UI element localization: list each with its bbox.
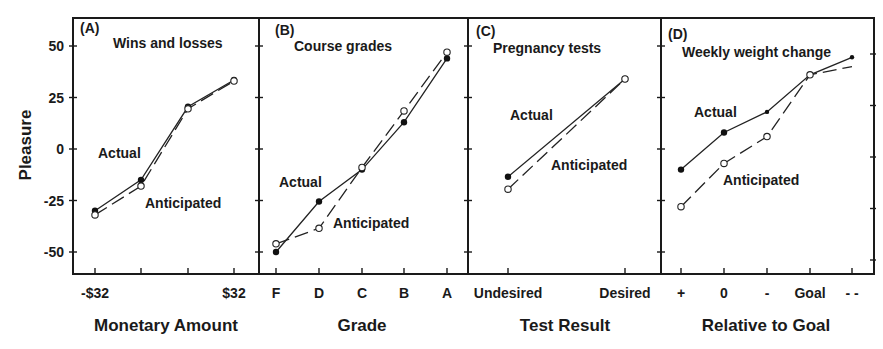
x-tick-label: $32 xyxy=(222,285,246,301)
anticipated-marker xyxy=(678,204,684,210)
actual-marker xyxy=(401,119,407,125)
panel-letter: (B) xyxy=(275,22,294,38)
x-tick-label: D xyxy=(314,285,324,301)
anticipated-marker xyxy=(721,160,727,166)
anticipated-marker xyxy=(273,241,279,247)
anticipated-marker xyxy=(622,76,628,82)
anticipated-marker xyxy=(807,72,813,78)
actual-marker xyxy=(765,110,769,114)
actual-marker xyxy=(444,55,450,61)
x-axis-title: Relative to Goal xyxy=(702,316,830,335)
panel-title: Course grades xyxy=(294,38,392,54)
actual-label: Actual xyxy=(694,104,737,120)
actual-marker xyxy=(678,166,684,172)
panel-title: Weekly weight change xyxy=(682,44,831,60)
y-tick-label: 25 xyxy=(48,90,64,106)
x-tick-label: C xyxy=(357,285,367,301)
actual-marker xyxy=(505,174,511,180)
actual-marker xyxy=(273,249,279,255)
x-tick-label: - xyxy=(765,285,770,301)
x-tick-label: 0 xyxy=(720,285,728,301)
x-tick-label: B xyxy=(399,285,409,301)
anticipated-marker xyxy=(764,133,770,139)
actual-label: Actual xyxy=(510,107,553,123)
anticipated-marker xyxy=(401,108,407,114)
anticipated-marker xyxy=(505,186,511,192)
anticipated-marker xyxy=(359,164,365,170)
actual-label: Actual xyxy=(98,145,141,161)
actual-marker xyxy=(316,198,322,204)
x-tick-label: F xyxy=(272,285,281,301)
x-axis-title: Monetary Amount xyxy=(94,316,238,335)
actual-marker xyxy=(721,129,727,135)
panel-d-weekly-weight-change: +0-Goal- -Relative to Goal(D)Weekly weig… xyxy=(657,18,876,335)
anticipated-marker xyxy=(444,49,450,55)
anticipated-marker xyxy=(231,78,237,84)
x-tick-label: A xyxy=(442,285,452,301)
x-tick-label: -$32 xyxy=(81,285,109,301)
anticipated-label: Anticipated xyxy=(723,172,799,188)
x-axis-title: Grade xyxy=(337,316,386,335)
anticipated-label: Anticipated xyxy=(145,195,221,211)
panel-title: Pregnancy tests xyxy=(493,40,601,56)
x-axis-title: Test Result xyxy=(520,316,611,335)
anticipated-marker xyxy=(138,183,144,189)
y-tick-label: -50 xyxy=(44,244,64,260)
panel-a-wins-and-losses: -$32$32Monetary Amount(A)Wins and losses… xyxy=(69,18,259,335)
anticipated-marker xyxy=(316,225,322,231)
anticipated-label: Anticipated xyxy=(551,157,627,173)
panel-c-pregnancy-tests: UndesiredDesiredTest Result(C)Pregnancy … xyxy=(464,18,661,335)
x-tick-label: Undesired xyxy=(474,285,542,301)
anticipated-marker xyxy=(185,106,191,112)
panel-frame xyxy=(468,18,661,274)
x-tick-label: + xyxy=(677,285,685,301)
x-tick-label: Desired xyxy=(599,285,650,301)
anticipated-marker xyxy=(92,212,98,218)
actual-label: Actual xyxy=(279,174,322,190)
x-tick-label: Goal xyxy=(794,285,825,301)
x-tick-label: - - xyxy=(845,285,859,301)
y-tick-labels: 50250-25-50 xyxy=(44,38,64,260)
y-tick-label: 0 xyxy=(56,141,64,157)
panel-letter: (A) xyxy=(80,20,99,36)
figure: Pleasure 50250-25-50 -$32$32Monetary Amo… xyxy=(0,0,883,349)
y-axis-title: Pleasure xyxy=(16,110,35,181)
actual-marker xyxy=(850,55,854,59)
panel-letter: (D) xyxy=(668,26,687,42)
actual-marker xyxy=(138,177,144,183)
y-tick-label: 50 xyxy=(48,38,64,54)
panel-title: Wins and losses xyxy=(113,35,223,51)
y-tick-label: -25 xyxy=(44,193,64,209)
panel-b-course-grades: FDCBAGrade(B)Course gradesActualAnticipa… xyxy=(255,18,468,335)
panel-letter: (C) xyxy=(476,23,495,39)
anticipated-label: Anticipated xyxy=(333,215,409,231)
